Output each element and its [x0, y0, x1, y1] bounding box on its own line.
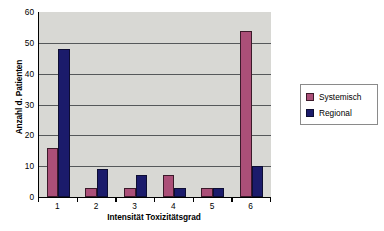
x-tick-label: 1: [42, 201, 72, 211]
x-tick-label: 5: [197, 201, 227, 211]
bar[interactable]: [97, 169, 109, 197]
legend-label: Regional: [319, 108, 352, 118]
x-tick-mark: [115, 198, 116, 202]
x-tick-mark: [193, 198, 194, 202]
legend: SystemischRegional: [300, 84, 378, 125]
legend-swatch-icon: [306, 93, 314, 101]
bar[interactable]: [58, 49, 70, 197]
x-tick-mark: [270, 198, 271, 202]
x-tick-mark: [154, 198, 155, 202]
x-axis-title: Intensität Toxizitätsgrad: [38, 212, 270, 222]
legend-item[interactable]: Regional: [306, 107, 352, 118]
x-tick-mark: [77, 198, 78, 202]
legend-swatch-icon: [306, 109, 314, 117]
x-tick-label: 3: [120, 201, 150, 211]
bar-group: [194, 12, 233, 197]
y-tick-label: 60: [14, 8, 34, 16]
y-tick-label: 30: [14, 100, 34, 108]
bar[interactable]: [47, 148, 59, 197]
legend-label: Systemisch: [319, 92, 361, 102]
y-tick-label: 20: [14, 131, 34, 139]
bar-group: [78, 12, 117, 197]
bar[interactable]: [213, 188, 225, 197]
bar-group: [155, 12, 194, 197]
bar[interactable]: [174, 188, 186, 197]
bar[interactable]: [240, 31, 252, 198]
y-tick-label: 0: [14, 193, 34, 201]
bar[interactable]: [136, 175, 148, 197]
bar[interactable]: [124, 188, 136, 197]
x-tick-mark: [38, 198, 39, 202]
x-axis-tick-labels: 123456: [38, 198, 270, 212]
y-tick-label: 50: [14, 39, 34, 47]
y-tick-label: 40: [14, 70, 34, 78]
plot-area: [38, 12, 271, 198]
bar-chart: Anzahl d. Patienten 0102030405060 123456…: [0, 0, 384, 231]
legend-item[interactable]: Systemisch: [306, 91, 361, 102]
x-tick-label: 4: [158, 201, 188, 211]
bars-layer: [39, 12, 271, 197]
bar[interactable]: [85, 188, 97, 197]
bar-group: [116, 12, 155, 197]
x-tick-mark: [231, 198, 232, 202]
bar[interactable]: [252, 166, 264, 197]
bar[interactable]: [163, 175, 175, 197]
y-tick-label: 10: [14, 162, 34, 170]
bar-group: [39, 12, 78, 197]
bar[interactable]: [201, 188, 213, 197]
bar-group: [232, 12, 271, 197]
y-axis-tick-labels: 0102030405060: [14, 12, 34, 197]
x-tick-label: 2: [81, 201, 111, 211]
x-tick-label: 6: [236, 201, 266, 211]
